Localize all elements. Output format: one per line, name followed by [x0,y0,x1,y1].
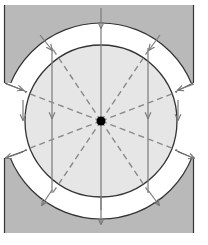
center-point [97,117,106,126]
diagram-canvas [0,0,208,245]
diagram-svg [0,0,208,245]
